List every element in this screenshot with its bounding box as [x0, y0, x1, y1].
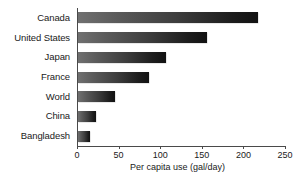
bar-united-states [78, 32, 207, 43]
bar-world [78, 91, 115, 102]
y-label-japan: Japan [45, 52, 70, 62]
y-label-united-states: United States [14, 33, 70, 43]
bar-china [78, 111, 96, 122]
bar-fill [78, 72, 149, 83]
bar-fill [78, 12, 258, 23]
x-tick-label-150: 150 [194, 150, 209, 160]
bar-japan [78, 52, 166, 63]
x-tick-label-50: 50 [114, 150, 124, 160]
y-axis-category-labels: CanadaUnited StatesJapanFranceWorldChina… [0, 0, 74, 144]
x-tick-mark-150 [202, 146, 203, 149]
x-axis-title-text: Per capita use (gal/day) [130, 162, 225, 172]
bar-fill [78, 52, 166, 63]
x-tick-label-200: 200 [236, 150, 251, 160]
y-label-france: France [41, 72, 70, 82]
x-tick-mark-100 [160, 146, 161, 149]
bar-france [78, 72, 149, 83]
x-axis-title: Per capita use (gal/day) [0, 162, 307, 172]
x-tick-mark-250 [285, 146, 286, 149]
y-label-world: World [46, 92, 70, 102]
y-label-bangladesh: Bangladesh [21, 131, 70, 141]
x-tick-label-100: 100 [153, 150, 168, 160]
bar-bangladesh [78, 131, 90, 142]
bar-fill [78, 131, 90, 142]
plot-area [77, 8, 305, 146]
bar-chart: CanadaUnited StatesJapanFranceWorldChina… [0, 0, 307, 180]
x-tick-mark-0 [77, 146, 78, 149]
y-label-canada: Canada [37, 13, 70, 23]
bar-canada [78, 12, 258, 23]
x-tick-label-250: 250 [277, 150, 292, 160]
bar-fill [78, 91, 115, 102]
bar-fill [78, 32, 207, 43]
x-tick-mark-200 [243, 146, 244, 149]
bar-fill [78, 111, 96, 122]
y-label-china: China [46, 111, 70, 121]
x-axis-line [77, 146, 285, 147]
x-tick-label-0: 0 [74, 150, 79, 160]
x-tick-mark-50 [119, 146, 120, 149]
